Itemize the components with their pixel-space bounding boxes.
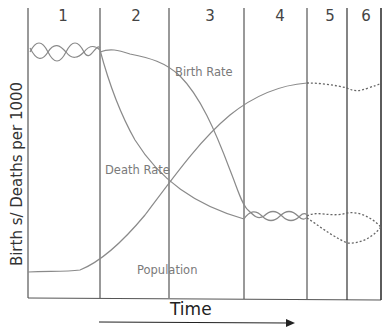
death-rate-label: Death Rate — [105, 163, 170, 177]
x-axis-label: Time — [170, 299, 212, 319]
stage-label-5: 5 — [320, 7, 340, 25]
stage1-oscillation — [30, 43, 100, 61]
time-arrow — [99, 319, 295, 327]
y-axis-label: Birth s/ Deaths per 1000 — [8, 79, 26, 269]
stage4-oscillation — [244, 210, 307, 221]
stage-label-2: 2 — [126, 7, 146, 25]
future-projections — [307, 83, 381, 243]
stage-label-4: 4 — [270, 7, 290, 25]
stage-label-6: 6 — [356, 7, 376, 25]
stage-label-1: 1 — [53, 7, 73, 25]
stage-label-3: 3 — [200, 7, 220, 25]
population-label: Population — [137, 263, 197, 277]
birth-rate-label: Birth Rate — [175, 65, 233, 79]
demographic-transition-diagram: 1 2 3 4 5 6 Birth Rate Death Rate Popula… — [0, 0, 385, 331]
population-curve — [28, 83, 307, 272]
stage-dividers — [28, 8, 381, 300]
diagram-canvas — [0, 0, 385, 331]
